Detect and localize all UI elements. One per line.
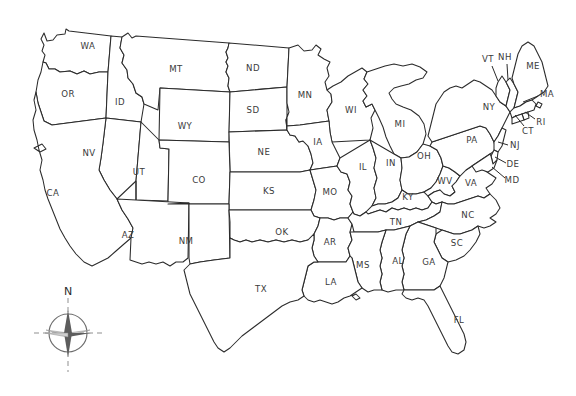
state-label-WA[interactable]: WA (81, 41, 96, 51)
state-label-MT[interactable]: MT (169, 64, 183, 74)
state-label-FL[interactable]: FL (454, 315, 465, 325)
state-label-PA[interactable]: PA (466, 135, 477, 145)
state-label-NJ[interactable]: NJ (510, 140, 520, 150)
state-label-MD[interactable]: MD (505, 175, 520, 185)
state-label-ME[interactable]: ME (526, 61, 540, 71)
state-label-AL[interactable]: AL (392, 256, 404, 266)
state-label-IL[interactable]: IL (359, 162, 367, 172)
state-label-IA[interactable]: IA (313, 137, 322, 147)
state-label-AZ[interactable]: AZ (122, 230, 135, 240)
state-label-NY[interactable]: NY (483, 102, 496, 112)
compass-north-label: N (64, 285, 72, 298)
state-label-MA[interactable]: MA (540, 89, 554, 99)
state-label-MN[interactable]: MN (298, 90, 313, 100)
state-label-CO[interactable]: CO (192, 175, 206, 185)
state-label-NM[interactable]: NM (179, 236, 194, 246)
state-label-IN[interactable]: IN (386, 158, 396, 168)
state-shape-WY[interactable] (159, 88, 230, 142)
us-map-svg: WAORIDMTNDSDMNWIMIWYNEIANVUTCOCAKSMOILIN… (0, 0, 576, 396)
state-label-NV[interactable]: NV (82, 148, 95, 158)
state-shape-MN[interactable] (286, 45, 332, 130)
leader-line-VT (492, 66, 498, 81)
leader-line-NH (507, 64, 508, 80)
state-label-UT[interactable]: UT (133, 167, 146, 177)
state-label-MS[interactable]: MS (356, 260, 370, 270)
state-shape-CO[interactable] (159, 140, 230, 204)
state-label-WY[interactable]: WY (178, 121, 193, 131)
us-map-figure: WAORIDMTNDSDMNWIMIWYNEIANVUTCOCAKSMOILIN… (0, 0, 576, 396)
state-label-KS[interactable]: KS (263, 186, 275, 196)
state-outlines-group (33, 29, 548, 354)
state-label-OH[interactable]: OH (417, 151, 431, 161)
state-label-SD[interactable]: SD (247, 105, 260, 115)
state-label-SC[interactable]: SC (451, 238, 463, 248)
state-label-CA[interactable]: CA (47, 188, 60, 198)
state-label-NH[interactable]: NH (498, 52, 512, 62)
state-label-TX[interactable]: TX (254, 284, 267, 294)
state-label-LA[interactable]: LA (325, 277, 337, 287)
state-label-NC[interactable]: NC (461, 210, 474, 220)
state-label-WV[interactable]: WV (437, 176, 452, 186)
state-label-WI[interactable]: WI (345, 105, 357, 115)
compass-star-west-arm (45, 333, 68, 337)
state-label-ND[interactable]: ND (246, 63, 260, 73)
state-label-NE[interactable]: NE (258, 147, 271, 157)
state-label-ID[interactable]: ID (115, 97, 125, 107)
state-label-AR[interactable]: AR (324, 237, 337, 247)
state-label-KY[interactable]: KY (402, 192, 414, 202)
state-label-GA[interactable]: GA (422, 257, 435, 267)
compass-rose: N (34, 285, 102, 372)
state-label-OR[interactable]: OR (61, 89, 75, 99)
state-label-OK[interactable]: OK (275, 227, 288, 237)
state-label-VA[interactable]: VA (465, 178, 477, 188)
state-label-MI[interactable]: MI (395, 119, 406, 129)
state-label-MO[interactable]: MO (322, 187, 337, 197)
state-label-VT[interactable]: VT (482, 54, 494, 64)
state-label-TN[interactable]: TN (389, 217, 403, 227)
state-shape-WA[interactable] (41, 29, 111, 74)
state-label-RI[interactable]: RI (536, 117, 545, 127)
state-label-DE[interactable]: DE (507, 159, 520, 169)
state-label-CT[interactable]: CT (522, 126, 534, 136)
